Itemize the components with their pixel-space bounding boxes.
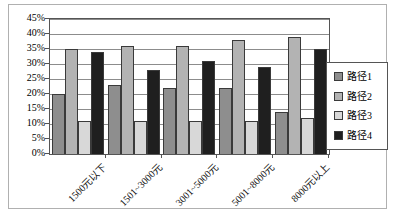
legend-label: 路径2 [347, 91, 372, 102]
bar-路径4 [258, 67, 271, 154]
x-axis-tick [216, 155, 217, 158]
bar-group [273, 19, 329, 154]
bar-路径2 [288, 37, 301, 154]
x-axis-tick [272, 155, 273, 158]
bar-路径1 [52, 94, 65, 154]
bar-路径4 [147, 70, 160, 154]
legend-item: 路径2 [334, 91, 387, 102]
bar-路径1 [219, 88, 232, 154]
bar-路径2 [176, 46, 189, 154]
x-axis-tick [328, 155, 329, 158]
bar-路径2 [232, 40, 245, 154]
x-axis-label: 3001~5000元 [171, 159, 221, 209]
x-axis-label: 1500元以下 [63, 159, 109, 205]
bar-路径3 [189, 121, 202, 154]
legend-swatch-icon [334, 92, 343, 101]
x-axis-label: 8000元以上 [287, 159, 333, 205]
y-axis-label: 20% [9, 87, 45, 99]
bar-路径2 [121, 46, 134, 154]
bar-路径1 [275, 112, 288, 154]
legend-item: 路径3 [334, 110, 387, 121]
bar-路径3 [134, 121, 147, 154]
y-axis-label: 45% [9, 12, 45, 24]
legend-label: 路径3 [347, 110, 372, 121]
bar-group [106, 19, 162, 154]
bar-路径3 [245, 121, 258, 154]
y-axis-label: 40% [9, 27, 45, 39]
x-axis-label: 5001~8000元 [227, 159, 277, 209]
y-axis-label: 0% [9, 147, 45, 159]
bar-路径3 [78, 121, 91, 154]
bar-路径4 [202, 61, 215, 154]
y-axis-label: 5% [9, 132, 45, 144]
y-axis-label: 30% [9, 57, 45, 69]
bar-路径3 [301, 118, 314, 154]
plot-area [49, 18, 330, 155]
bar-路径4 [91, 52, 104, 154]
legend-label: 路径1 [347, 71, 372, 82]
y-axis-label: 15% [9, 102, 45, 114]
legend-swatch-icon [334, 111, 343, 120]
bar-group [50, 19, 106, 154]
bar-group [217, 19, 273, 154]
bar-路径2 [65, 49, 78, 154]
bar-路径1 [108, 85, 121, 154]
x-axis-tick [161, 155, 162, 158]
bar-groups [50, 19, 329, 154]
legend-swatch-icon [334, 72, 343, 81]
bar-group [162, 19, 218, 154]
legend-label: 路径4 [347, 130, 372, 141]
legend-swatch-icon [334, 131, 343, 140]
y-axis-label: 10% [9, 117, 45, 129]
chart-frame: 0%5%10%15%20%25%30%35%40%45% 1500元以下1501… [8, 4, 387, 209]
legend-item: 路径1 [334, 71, 387, 82]
y-axis-label: 25% [9, 72, 45, 84]
legend-item: 路径4 [334, 130, 387, 141]
y-axis-label: 35% [9, 42, 45, 54]
x-axis-label: 1501~3000元 [115, 159, 165, 209]
bar-路径1 [163, 88, 176, 154]
x-axis-tick [105, 155, 106, 158]
legend: 路径1路径2路径3路径4 [326, 62, 388, 150]
